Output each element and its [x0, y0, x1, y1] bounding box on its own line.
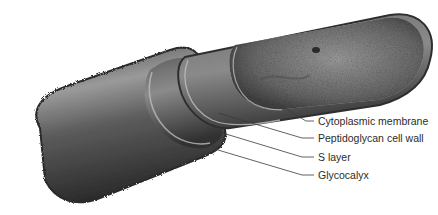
label-glycocalyx: Glycocalyx — [318, 169, 369, 181]
nucleoid-dot — [312, 47, 320, 53]
label-s-layer: S layer — [318, 151, 351, 163]
label-cytoplasmic-membrane: Cytoplasmic membrane — [318, 115, 428, 127]
leader-line-glycocalyx — [218, 150, 314, 175]
bacterial-cell-diagram — [0, 0, 438, 215]
label-peptidoglycan-cell-wall: Peptidoglycan cell wall — [318, 132, 424, 144]
